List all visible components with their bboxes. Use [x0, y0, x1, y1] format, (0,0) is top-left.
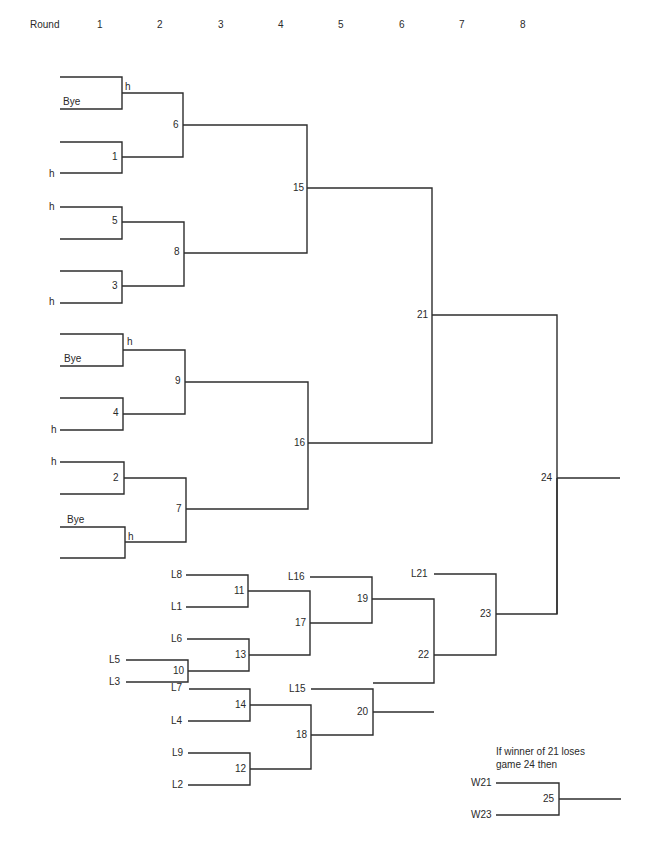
loser-entry: L4 [171, 715, 182, 727]
game-number: 14 [235, 699, 246, 711]
entry-label: h [125, 81, 131, 93]
loser-entry: L5 [109, 654, 120, 666]
game-number: 24 [541, 472, 552, 484]
bye-label: Bye [67, 514, 84, 526]
entry-label: h [51, 424, 57, 436]
game-number: 15 [293, 182, 304, 194]
loser-entry: L8 [171, 569, 182, 581]
if-necessary-note: If winner of 21 loses game 24 then [496, 745, 585, 771]
note-line-2: game 24 then [496, 758, 585, 771]
game-number: 6 [173, 119, 179, 131]
note-line-1: If winner of 21 loses [496, 745, 585, 758]
game-number: 2 [113, 472, 119, 484]
entry-label: h [127, 336, 133, 348]
game-number: 21 [417, 309, 428, 321]
loser-entry: L16 [288, 571, 305, 583]
entry-label: h [49, 296, 55, 308]
loser-entry: L1 [171, 601, 182, 613]
game-number: 10 [173, 665, 184, 677]
winner-entry: W23 [471, 809, 492, 821]
loser-entry: L21 [411, 568, 428, 580]
loser-entry: L7 [171, 682, 182, 694]
game-number: 22 [418, 649, 429, 661]
bracket-lines [0, 0, 658, 855]
game-number: 11 [234, 585, 244, 597]
round-7-header: 7 [459, 19, 465, 31]
round-header-label: Round [30, 19, 59, 31]
round-5-header: 5 [338, 19, 344, 31]
entry-label: h [49, 201, 55, 213]
game-number: 4 [113, 407, 119, 419]
winner-entry: W21 [471, 777, 492, 789]
entry-label: h [128, 531, 134, 543]
game-number: 17 [295, 617, 306, 629]
game-number: 9 [175, 375, 181, 387]
game-number: 19 [357, 593, 368, 605]
game-number: 18 [296, 729, 307, 741]
game-number: 12 [235, 763, 246, 775]
loser-entry: L9 [172, 747, 183, 759]
game-number: 13 [235, 649, 246, 661]
loser-entry: L6 [171, 633, 182, 645]
game-number: 8 [174, 246, 180, 258]
bye-label: Bye [63, 96, 80, 108]
tournament-bracket: Round 1 2 3 4 5 6 7 8 h Bye h h h h Bye … [0, 0, 658, 855]
game-number: 3 [112, 280, 118, 292]
game-number: 23 [480, 608, 491, 620]
bye-label: Bye [64, 353, 81, 365]
game-number: 25 [543, 793, 554, 805]
round-3-header: 3 [218, 19, 224, 31]
loser-entry: L2 [172, 779, 183, 791]
round-4-header: 4 [278, 19, 284, 31]
entry-label: h [49, 168, 55, 180]
game-number: 1 [112, 151, 118, 163]
round-1-header: 1 [97, 19, 103, 31]
game-number: 5 [112, 215, 118, 227]
game-number: 16 [294, 437, 305, 449]
loser-entry: L15 [289, 683, 306, 695]
round-2-header: 2 [157, 19, 163, 31]
round-6-header: 6 [399, 19, 405, 31]
round-8-header: 8 [520, 19, 526, 31]
entry-label: h [51, 456, 57, 468]
game-number: 20 [357, 706, 368, 718]
game-number: 7 [176, 503, 182, 515]
loser-entry: L3 [109, 676, 120, 688]
